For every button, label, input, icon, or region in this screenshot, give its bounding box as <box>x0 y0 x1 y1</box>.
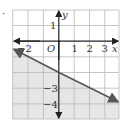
x-tick-neg2: −2 <box>17 43 32 54</box>
x-tick-3: 3 <box>102 43 108 54</box>
y-tick-neg4: −4 <box>43 99 58 110</box>
problem-marker: · <box>2 8 5 19</box>
shaded-region <box>13 49 119 119</box>
x-tick-2: 2 <box>87 43 93 54</box>
y-axis-label: y <box>61 9 68 20</box>
y-tick-1: 1 <box>50 20 56 31</box>
origin-label: O <box>47 43 55 54</box>
y-tick-neg3: −3 <box>43 83 58 94</box>
x-axis-label: x <box>112 43 118 54</box>
coordinate-graph: · y x O −2 1 2 3 1 −3 −4 <box>0 0 125 128</box>
x-tick-1: 1 <box>72 43 78 54</box>
